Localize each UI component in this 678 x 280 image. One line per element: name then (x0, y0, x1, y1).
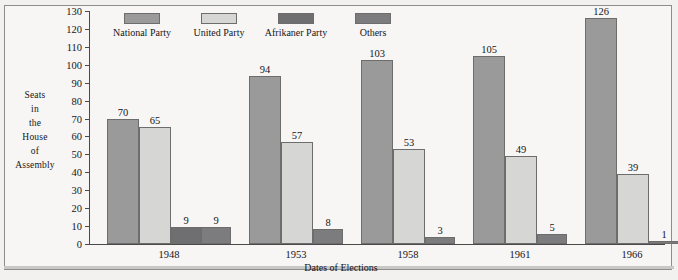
y-axis-title-line-4: House (6, 130, 64, 144)
bar-value-1948-afrikaner-party: 9 (183, 215, 188, 226)
bar-value-1966-others: 1 (661, 229, 666, 240)
y-tick-label-60: 60 (72, 131, 83, 142)
bar-value-1958-others: 3 (437, 225, 442, 236)
y-tick-label-10: 10 (72, 221, 83, 232)
bar-group-1953: 94 57 8 1953 (249, 11, 343, 244)
bar-value-1958-national-party: 103 (369, 48, 385, 59)
bar-value-1961-united-party: 49 (516, 144, 527, 155)
y-tick-label-50: 50 (72, 149, 83, 160)
bar-value-1953-others: 8 (325, 217, 330, 228)
bar-value-1958-united-party: 53 (404, 137, 415, 148)
y-axis-title-line-1: Seats (6, 88, 64, 102)
bar-group-1961: 105 49 5 1961 (473, 11, 567, 244)
y-tick-label-20: 20 (72, 203, 83, 214)
bar-1958-others[interactable]: 3 (425, 237, 455, 244)
bar-value-1948-national-party: 70 (118, 107, 129, 118)
x-tick-label-1953: 1953 (286, 249, 307, 260)
bar-group-1948: 70 65 9 9 1948 (107, 11, 231, 244)
bar-value-1966-united-party: 39 (628, 162, 639, 173)
bar-value-1966-national-party: 126 (593, 6, 609, 17)
y-tick-label-80: 80 (72, 96, 83, 107)
bar-group-1966: 126 39 1 1966 (585, 11, 678, 244)
y-tick-label-100: 100 (66, 60, 82, 71)
bar-1961-others[interactable]: 5 (537, 234, 567, 244)
y-axis-title-line-5: of (6, 144, 64, 158)
bar-value-1953-national-party: 94 (260, 64, 271, 75)
y-tick-label-30: 30 (72, 185, 83, 196)
bar-1966-united-party[interactable]: 39 (617, 174, 649, 244)
x-tick-label-1966: 1966 (622, 249, 643, 260)
y-tick-label-0: 0 (77, 239, 82, 250)
y-axis-title-line-6: Assembly (6, 158, 64, 172)
y-tick-label-90: 90 (72, 78, 83, 89)
bar-1961-national-party[interactable]: 105 (473, 56, 505, 244)
bar-value-1948-united-party: 65 (150, 115, 161, 126)
bar-1966-national-party[interactable]: 126 (585, 18, 617, 244)
x-tick-label-1948: 1948 (159, 249, 180, 260)
bar-1948-united-party[interactable]: 65 (139, 127, 171, 244)
x-tick-label-1961: 1961 (510, 249, 531, 260)
chart-screenshot: Seats in the House of Assembly National … (0, 0, 678, 280)
x-tick-label-1958: 1958 (398, 249, 419, 260)
bar-1958-united-party[interactable]: 53 (393, 149, 425, 244)
bar-1961-united-party[interactable]: 49 (505, 156, 537, 244)
bar-value-1948-others: 9 (213, 215, 218, 226)
y-tick-label-110: 110 (67, 42, 82, 53)
x-axis-title: Dates of Elections (304, 262, 377, 273)
y-axis-title-line-2: in (6, 102, 64, 116)
bar-1958-national-party[interactable]: 103 (361, 60, 393, 244)
bar-1948-national-party[interactable]: 70 (107, 119, 139, 244)
bar-1948-others[interactable]: 9 (201, 227, 231, 244)
y-tick-label-40: 40 (72, 167, 83, 178)
bar-1953-united-party[interactable]: 57 (281, 142, 313, 244)
x-axis-line (89, 244, 665, 245)
y-tick-label-130: 130 (66, 6, 82, 17)
bar-1966-others[interactable]: 1 (649, 241, 678, 244)
bar-1948-afrikaner-party[interactable]: 9 (171, 227, 201, 244)
bar-value-1961-others: 5 (549, 222, 554, 233)
bar-group-1958: 103 53 3 1958 (361, 11, 455, 244)
bar-1953-others[interactable]: 8 (313, 229, 343, 244)
plot-area: 0 10 20 30 40 50 60 70 80 90 100 (89, 11, 665, 245)
y-axis-title-line-3: the (6, 116, 64, 130)
bar-1953-national-party[interactable]: 94 (249, 76, 281, 244)
y-tick-label-120: 120 (66, 24, 82, 35)
bar-value-1961-national-party: 105 (481, 44, 497, 55)
y-axis-title: Seats in the House of Assembly (6, 88, 64, 172)
y-tick-label-70: 70 (72, 114, 83, 125)
bar-value-1953-united-party: 57 (292, 130, 303, 141)
